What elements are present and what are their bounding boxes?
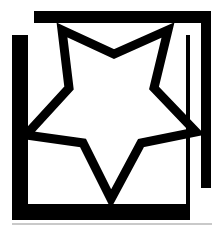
image-canvas — [0, 0, 222, 226]
bottom-hairline-rule — [12, 223, 212, 225]
star-frames-artwork — [0, 0, 222, 226]
